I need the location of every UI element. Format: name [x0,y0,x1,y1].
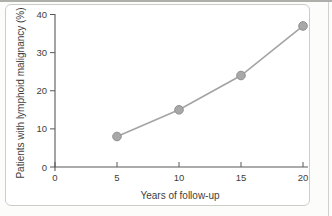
x-tick-label: 10 [174,172,185,183]
y-axis-title: Patients with lymphoid malignancy (%) [15,7,26,178]
data-point [113,132,122,141]
y-tick-label: 20 [36,85,47,96]
page-top-rule [0,0,332,2]
x-tick-label: 20 [298,172,309,183]
x-tick-label: 5 [114,172,119,183]
line-chart: 05101520010203040 [6,5,309,205]
figure-box: 05101520010203040 Patients with lymphoid… [5,4,310,206]
x-axis-title: Years of follow-up [140,190,219,201]
x-tick-label: 0 [52,172,57,183]
y-tick-label: 40 [36,9,47,20]
x-tick-label: 15 [236,172,247,183]
scanned-figure-page: 05101520010203040 Patients with lymphoid… [0,0,332,216]
data-point [299,22,308,31]
page-edge-line [328,2,329,216]
data-point [175,106,184,115]
y-tick-label: 30 [36,47,47,58]
y-tick-label: 0 [42,162,47,173]
data-point [237,71,246,80]
y-tick-label: 10 [36,123,47,134]
data-line [117,26,303,137]
